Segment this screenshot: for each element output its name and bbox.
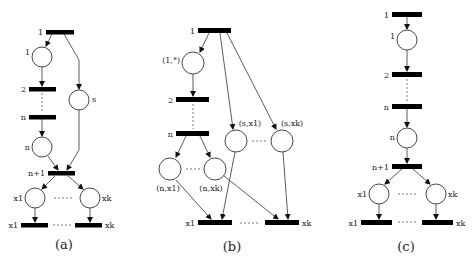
transition-bar <box>46 30 74 35</box>
transition-label: 2 <box>21 85 26 94</box>
transition-bar <box>392 164 422 169</box>
arc <box>46 34 52 46</box>
place-circle <box>80 188 100 208</box>
place-label: (n,xk) <box>199 184 222 193</box>
place-label: (n,x1) <box>156 184 180 193</box>
transition-bar <box>265 220 299 225</box>
place-circle <box>397 128 417 148</box>
arc <box>64 34 79 89</box>
place-circle <box>32 137 52 157</box>
arc <box>413 169 430 184</box>
transition-bar <box>392 72 422 77</box>
place-circle <box>69 90 89 110</box>
transition-bar <box>29 115 56 120</box>
place-label: (1,*) <box>162 56 180 65</box>
arc <box>227 33 276 129</box>
place-circle <box>426 184 446 204</box>
arc <box>224 176 278 219</box>
transition-bar <box>422 220 453 225</box>
place-label: (s,xk) <box>281 119 303 128</box>
transition-bar <box>75 223 102 228</box>
place-circle <box>182 52 204 74</box>
transition-label: x1 <box>8 221 18 230</box>
panel-caption: (c) <box>397 239 414 254</box>
transition-label: xk <box>456 219 466 228</box>
arc <box>176 136 186 157</box>
panel-caption: (b) <box>223 239 241 254</box>
place-label: n <box>390 133 395 142</box>
place-label: x1 <box>13 194 23 203</box>
place-label: s <box>92 95 96 104</box>
transition-bar <box>48 171 75 176</box>
place-label: (s,x1) <box>239 119 262 128</box>
transition-bar <box>392 12 422 17</box>
transition-label: 1 <box>38 28 43 37</box>
place-circle <box>32 47 52 67</box>
arc <box>67 110 79 170</box>
place-label: n <box>25 143 30 152</box>
transition-label: xk <box>105 221 115 230</box>
panel-c: 1 2 n n+1 x1 xk 1 n x1 xk (c) <box>348 11 465 254</box>
arc <box>200 136 210 157</box>
place-label: 1 <box>390 32 395 41</box>
transition-bar <box>176 131 209 136</box>
transition-bar <box>392 104 422 109</box>
place-circle <box>204 158 226 180</box>
transition-bar <box>176 97 209 102</box>
arc <box>220 33 233 129</box>
transition-label: n+1 <box>28 169 45 178</box>
transition-label: n+1 <box>372 163 389 172</box>
transition-label: n <box>384 103 389 112</box>
transition-label: xk <box>302 219 312 228</box>
transition-bar <box>198 220 232 225</box>
transition-bar <box>361 220 392 225</box>
place-label: x1 <box>357 190 367 199</box>
transition-bar <box>29 87 56 92</box>
transition-label: x1 <box>185 219 195 228</box>
arc <box>283 152 288 219</box>
panel-a: 1 2 n n+1 x1 xk 1 s n x1 xk (a) <box>8 28 114 252</box>
panel-caption: (a) <box>55 237 73 252</box>
transition-label: 2 <box>168 96 173 105</box>
place-circle <box>25 188 45 208</box>
place-circle <box>397 30 417 50</box>
arc <box>48 156 58 170</box>
place-circle <box>225 130 247 152</box>
panel-b: 1 2 n x1 xk (1,*) (s,x1) (s,xk) (n,x1) (… <box>156 27 311 254</box>
transition-label: n <box>21 113 26 122</box>
place-circle <box>369 184 389 204</box>
place-label: 1 <box>25 48 30 57</box>
place-label: xk <box>102 194 112 203</box>
place-label: xk <box>448 190 458 199</box>
transition-label: 1 <box>190 27 195 36</box>
transition-label: n <box>168 130 173 139</box>
arc <box>68 176 83 189</box>
place-circle <box>271 130 293 152</box>
arc <box>200 33 209 52</box>
transition-label: 2 <box>384 71 389 80</box>
transition-bar <box>21 223 48 228</box>
place-circle <box>159 158 181 180</box>
transition-label: x1 <box>348 219 358 228</box>
transition-bar <box>198 28 231 33</box>
petri-net-figure: 1 2 n n+1 x1 xk 1 s n x1 xk (a) <box>0 0 474 266</box>
transition-label: 1 <box>384 11 389 20</box>
